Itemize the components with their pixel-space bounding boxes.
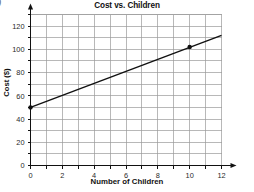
svg-text:80: 80 — [16, 68, 24, 77]
grid-minor — [31, 15, 222, 166]
plot-area: 024681012020406080100120 — [0, 0, 254, 192]
svg-text:6: 6 — [124, 171, 128, 180]
svg-text:120: 120 — [12, 22, 24, 31]
svg-text:60: 60 — [16, 92, 24, 101]
svg-text:8: 8 — [156, 171, 160, 180]
svg-text:100: 100 — [12, 45, 24, 54]
svg-text:12: 12 — [217, 171, 225, 180]
svg-text:0: 0 — [20, 161, 24, 170]
svg-text:4: 4 — [92, 171, 96, 180]
svg-text:20: 20 — [16, 138, 24, 147]
svg-text:2: 2 — [60, 171, 64, 180]
svg-text:0: 0 — [28, 171, 32, 180]
axes — [28, 4, 237, 169]
svg-text:10: 10 — [186, 171, 194, 180]
chart-figure: ) Cost vs. Children Cost ($) Number of C… — [0, 0, 254, 192]
svg-text:40: 40 — [16, 115, 24, 124]
